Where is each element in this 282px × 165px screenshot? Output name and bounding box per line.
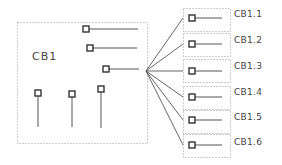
sub-block-handle-4[interactable] (189, 94, 195, 100)
sub-block-stack: CB1.1CB1.2CB1.3CB1.4CB1.5CB1.6 (184, 9, 263, 158)
sub-block-cb1-2[interactable]: CB1.2 (184, 34, 263, 57)
fan-line-5 (146, 71, 183, 120)
sub-block-title-1: CB1.1 (234, 9, 262, 19)
fan-line-1 (146, 18, 183, 71)
main-block-title: CB1 (32, 50, 57, 63)
sub-block-cb1-3[interactable]: CB1.3 (184, 60, 263, 83)
sub-block-title-2: CB1.2 (234, 35, 262, 45)
sub-block-title-3: CB1.3 (234, 61, 262, 71)
main-output-handle-1[interactable] (83, 26, 89, 32)
sub-block-cb1-6[interactable]: CB1.6 (184, 135, 263, 158)
sub-block-cb1-5[interactable]: CB1.5 (184, 111, 263, 134)
fan-line-2 (146, 44, 183, 71)
main-input-handle-2[interactable] (69, 91, 75, 97)
sub-block-handle-2[interactable] (189, 41, 195, 47)
sub-block-handle-3[interactable] (189, 68, 195, 74)
main-block-border (18, 23, 148, 144)
sub-block-cb1-1[interactable]: CB1.1 (184, 9, 263, 32)
sub-block-handle-5[interactable] (189, 117, 195, 123)
sub-block-handle-6[interactable] (189, 142, 195, 148)
sub-block-handle-1[interactable] (189, 15, 195, 21)
fan-line-4 (146, 71, 183, 97)
block-diagram: CB1 CB1.1CB1.2CB1.3CB1.4CB1.5CB1.6 (0, 0, 282, 165)
main-input-handle-1[interactable] (35, 90, 41, 96)
fan-line-6 (146, 71, 183, 145)
main-block-cb1[interactable]: CB1 (18, 23, 148, 144)
main-output-handle-3[interactable] (103, 66, 109, 72)
sub-block-title-5: CB1.5 (234, 112, 262, 122)
sub-block-title-4: CB1.4 (234, 87, 262, 97)
fan-connectors (146, 18, 183, 145)
main-input-handle-3[interactable] (98, 86, 104, 92)
sub-block-title-6: CB1.6 (234, 137, 262, 147)
sub-block-cb1-4[interactable]: CB1.4 (184, 87, 263, 110)
main-output-handle-2[interactable] (87, 45, 93, 51)
